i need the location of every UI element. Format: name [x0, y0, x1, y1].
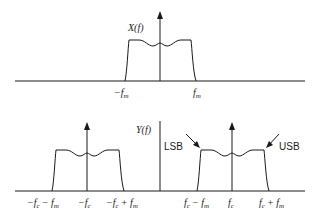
bottom-plot: Y(f) LSB USB −fc− fm −fc −fc+ fm fc− fm — [15, 121, 305, 210]
arrow-up-icon — [157, 11, 163, 19]
arrow-up-icon — [229, 122, 235, 130]
tick-label-neg-fc: −fc — [78, 197, 92, 210]
lsb-label: LSB — [164, 141, 183, 152]
tick-label-fc: fc — [228, 197, 235, 210]
tick-label-neg-fc-minus-fm: −fc− fm — [27, 197, 59, 210]
positive-band-spectrum — [197, 150, 269, 191]
top-ylabel: X(f) — [127, 22, 144, 34]
tick-label-neg-fc-plus-fm: −fc+ fm — [106, 197, 138, 210]
top-plot: X(f) −fm fm — [15, 11, 305, 100]
usb-label: USB — [279, 141, 300, 152]
tick-label-fc-minus-fm: fc− fm — [184, 197, 209, 210]
tick-label-fm: fm — [193, 87, 201, 100]
tick-label-fc-plus-fm: fc+ fm — [259, 197, 284, 210]
arrow-up-icon — [84, 122, 90, 130]
bottom-ylabel: Y(f) — [136, 124, 152, 136]
negative-band-spectrum — [52, 150, 124, 191]
spectrum-diagram: X(f) −fm fm Y(f) LSB USB −fc− fm — [0, 0, 320, 215]
tick-label-neg-fm: −fm — [114, 87, 129, 100]
